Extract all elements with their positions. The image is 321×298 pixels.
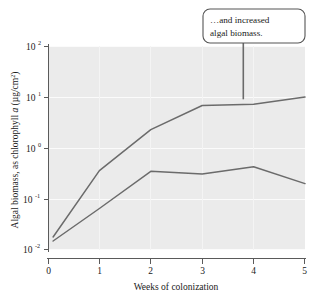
y-tick-label-1e-2: 10 -2: [23, 242, 40, 255]
x-axis-tick-labels: 0 1 2 3 4 5: [46, 266, 307, 276]
x-tick-label: 2: [148, 266, 153, 276]
y-axis-title: Algal biomass, as chlorophyll a (µg/cm2): [9, 72, 21, 229]
y-tick-base: 10: [23, 245, 33, 255]
y-tick-exponent: 2: [38, 39, 41, 46]
y-tick-exponent: -1: [35, 192, 40, 199]
y-tick-base: 10: [23, 195, 33, 205]
callout-line-1: …and increased: [210, 15, 270, 25]
y-axis-title-units-close: ): [10, 72, 21, 75]
callout-line-2: algal biomass.: [210, 28, 263, 38]
x-tick-label: 4: [251, 266, 256, 276]
y-tick-label-1e2: 10 2: [26, 39, 41, 52]
algal-biomass-line-chart: 10 2 10 1 10 0 10 -1 10 -2 0 1: [0, 0, 321, 298]
y-axis-ticks: [44, 47, 48, 250]
x-tick-label: 3: [200, 266, 205, 276]
y-axis-title-units-open: (µg/cm: [10, 77, 21, 108]
x-tick-label: 1: [97, 266, 102, 276]
y-tick-base: 10: [26, 93, 36, 103]
y-axis-title-lead: Algal biomass, as chlorophyll: [10, 113, 20, 229]
y-tick-base: 10: [26, 144, 36, 154]
x-tick-label: 0: [46, 266, 51, 276]
svg-text:Algal biomass, as chlorophyll: Algal biomass, as chlorophyll a (µg/cm2): [9, 72, 21, 229]
chart-figure: 10 2 10 1 10 0 10 -1 10 -2 0 1: [0, 0, 321, 298]
y-tick-base: 10: [26, 42, 36, 52]
y-tick-label-1e0: 10 0: [26, 141, 41, 154]
y-tick-label-1e1: 10 1: [26, 90, 41, 103]
y-tick-label-1e-1: 10 -1: [23, 192, 40, 205]
x-tick-label: 5: [302, 266, 307, 276]
y-tick-exponent: 0: [38, 141, 41, 148]
y-axis-tick-labels: 10 2 10 1 10 0 10 -1 10 -2: [23, 39, 41, 255]
y-tick-exponent: -2: [35, 242, 40, 249]
x-axis-title: Weeks of colonization: [134, 282, 219, 292]
y-tick-exponent: 1: [38, 90, 41, 97]
